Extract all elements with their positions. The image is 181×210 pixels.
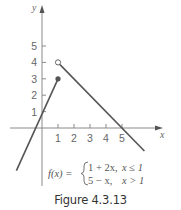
x-ticks <box>58 124 122 128</box>
y-tick-label: 3 <box>31 73 37 85</box>
formula-piece2-expr: 5 − x, <box>88 175 112 186</box>
figure-caption: Figure 4.3.13 <box>0 193 181 207</box>
y-tick-label: 5 <box>31 40 37 52</box>
x-tick-label: 3 <box>87 132 93 144</box>
x-tick-label: 4 <box>103 132 109 144</box>
y-tick-label: 1 <box>31 106 37 118</box>
formula-piece1-cond: x ≤ 1 <box>121 162 143 173</box>
open-endpoint-circle <box>55 60 60 65</box>
x-axis-label: x <box>159 129 165 140</box>
formula: f(x) = 1 + 2x, x ≤ 1 5 − x, x > 1 <box>48 162 144 187</box>
formula-brace <box>81 162 88 185</box>
y-axis-label: y <box>31 2 37 13</box>
y-ticks <box>42 46 46 112</box>
formula-piece2-cond: x > 1 <box>121 175 144 186</box>
x-tick-label: 5 <box>119 132 125 144</box>
x-tick-label: 1 <box>55 132 61 144</box>
x-tick-label: 2 <box>71 132 77 144</box>
y-axis-arrow-icon <box>40 5 45 13</box>
closed-endpoint-dot <box>55 76 60 81</box>
series-line-1-plus-2x <box>16 79 58 171</box>
y-tick-label: 4 <box>31 56 37 68</box>
y-tick-label: 2 <box>31 89 37 101</box>
formula-lhs: f(x) = <box>48 168 72 180</box>
formula-piece1-expr: 1 + 2x, <box>88 162 118 173</box>
piecewise-function-graph: 1 2 3 4 5 1 2 3 4 5 x y f(x) = 1 + 2x, x… <box>0 0 181 210</box>
